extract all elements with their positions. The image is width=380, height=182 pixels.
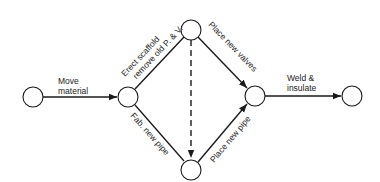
node-5 [245,86,265,106]
edge-place-new-valves [198,37,247,88]
edge-fab-new-pipe [135,105,184,161]
node-2 [118,87,138,107]
node-6 [342,86,362,106]
label-place-new-valves: Place new valves [207,19,260,73]
label-insulate: insulate [287,83,317,93]
node-1 [23,87,43,107]
node-4 [181,160,201,180]
activity-network-diagram: Move material Erect scaffold remove old … [0,0,380,182]
label-move: Move [58,76,79,86]
label-place-new-pipe: Place new pipe [208,113,253,164]
label-fab-new-pipe: Fab. new pipe [129,111,172,158]
label-material: material [58,86,88,96]
label-weld: Weld & [287,73,315,83]
